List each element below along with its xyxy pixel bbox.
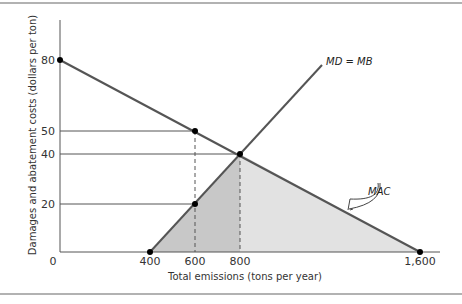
x-tick-1600: 1,600 — [404, 255, 436, 268]
y-tick-20: 20 — [41, 198, 55, 211]
x-axis-title: Total emissions (tons per year) — [167, 271, 322, 282]
point-600-50 — [192, 128, 198, 134]
y-tick-80: 80 — [41, 54, 55, 67]
chart: 80 50 40 20 0 400 600 800 1,600 Total em… — [0, 0, 462, 304]
mac-label: MAC — [368, 186, 390, 197]
point-800-40 — [237, 151, 243, 157]
point-0-80 — [57, 57, 63, 63]
md-mb-label: MD = MB — [326, 56, 373, 67]
origin-label: 0 — [50, 255, 57, 268]
x-tick-800: 800 — [230, 255, 251, 268]
point-600-20 — [192, 201, 198, 207]
x-tick-400: 400 — [140, 255, 161, 268]
x-tick-600: 600 — [185, 255, 206, 268]
y-axis-title: Damages and abatement costs (dollars per… — [27, 15, 38, 255]
y-tick-50: 50 — [41, 125, 55, 138]
y-tick-40: 40 — [41, 148, 55, 161]
